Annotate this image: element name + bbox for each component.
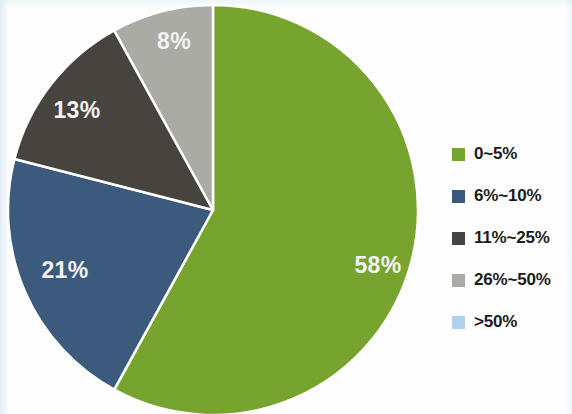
legend-item-4[interactable]: 26%~50% xyxy=(452,259,572,301)
pie-slice-label-4: 8% xyxy=(157,28,191,54)
pie-chart-figure: 58%21%13%8% 0~5%6%~10%11%~25%26%~50%>50% xyxy=(0,0,572,414)
legend-item-label-1: 0~5% xyxy=(474,144,517,164)
legend-item-label-3: 11%~25% xyxy=(474,228,550,248)
legend-swatch-icon-3 xyxy=(452,232,465,245)
legend-item-label-5: >50% xyxy=(474,312,517,332)
legend-swatch-icon-4 xyxy=(452,274,465,287)
pie-slice-label-3: 13% xyxy=(54,97,101,123)
legend-swatch-icon-2 xyxy=(452,190,465,203)
chart-legend: 0~5%6%~10%11%~25%26%~50%>50% xyxy=(452,133,572,343)
legend-item-3[interactable]: 11%~25% xyxy=(452,217,572,259)
legend-item-label-4: 26%~50% xyxy=(474,270,551,290)
legend-item-5[interactable]: >50% xyxy=(452,301,572,343)
legend-item-label-2: 6%~10% xyxy=(474,186,541,206)
pie-slice-label-1: 58% xyxy=(355,252,402,278)
legend-swatch-icon-5 xyxy=(452,316,465,329)
pie-slices-group xyxy=(8,5,418,414)
pie-slice-label-2: 21% xyxy=(42,257,89,283)
legend-swatch-icon-1 xyxy=(452,148,465,161)
legend-item-1[interactable]: 0~5% xyxy=(452,133,572,175)
legend-item-2[interactable]: 6%~10% xyxy=(452,175,572,217)
